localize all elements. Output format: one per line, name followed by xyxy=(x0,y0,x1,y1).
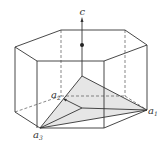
c-arrowhead-icon xyxy=(81,17,84,22)
a3-label: a3 xyxy=(33,129,43,141)
a1-label: a1 xyxy=(148,105,158,117)
c-label: c xyxy=(80,6,86,17)
axis-point xyxy=(80,43,84,47)
hexagonal-prism-diagram: c a1 a2 a3 xyxy=(0,0,166,142)
a2-label: a2 xyxy=(51,89,61,101)
